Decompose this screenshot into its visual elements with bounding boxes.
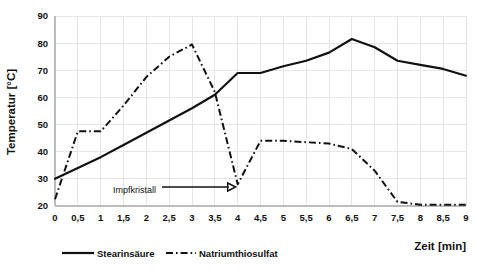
x-tick-label: 2,5 — [163, 212, 177, 223]
temperature-time-line-chart: 2030405060708090 00,511,522,533,544,555,… — [0, 0, 481, 272]
y-tick-label: 50 — [37, 119, 48, 130]
legend-label-natriumthiosulfat: Natriumthiosulfat — [199, 248, 278, 259]
x-tick-label: 4,5 — [254, 212, 268, 223]
y-tick-label: 90 — [37, 10, 48, 21]
x-tick-label: 1,5 — [117, 212, 131, 223]
x-tick-label: 3,5 — [208, 212, 222, 223]
x-tick-label: 0,5 — [71, 212, 85, 223]
x-axis-title: Zeit [min] — [414, 240, 466, 252]
y-tick-label: 70 — [37, 65, 48, 76]
x-tick-label: 8 — [418, 212, 423, 223]
legend-label-stearinsaeure: Stearinsäure — [97, 248, 155, 259]
y-tick-label: 80 — [37, 38, 48, 49]
annotation-impfkristall: Impfkristall — [113, 183, 236, 195]
x-tick-label: 4 — [235, 212, 241, 223]
annotation-label: Impfkristall — [113, 185, 156, 195]
x-tick-label: 7,5 — [391, 212, 405, 223]
x-tick-label: 5 — [281, 212, 287, 223]
x-axis-tick-labels: 00,511,522,533,544,555,566,577,588,59 — [52, 212, 468, 223]
y-axis-title: Temperatur [°C] — [5, 69, 17, 155]
y-tick-label: 20 — [37, 200, 48, 211]
chart-container: 2030405060708090 00,511,522,533,544,555,… — [0, 0, 481, 272]
chart-gridlines — [55, 16, 466, 206]
x-tick-label: 6 — [326, 212, 331, 223]
y-tick-label: 40 — [37, 146, 48, 157]
x-tick-label: 2 — [144, 212, 149, 223]
x-tick-label: 7 — [372, 212, 377, 223]
chart-legend: Stearinsäure Natriumthiosulfat — [62, 248, 278, 259]
x-tick-label: 8,5 — [437, 212, 451, 223]
y-axis-tick-labels: 2030405060708090 — [37, 10, 48, 211]
x-tick-label: 6,5 — [345, 212, 359, 223]
x-tick-label: 1 — [98, 212, 104, 223]
x-tick-label: 5,5 — [300, 212, 314, 223]
x-tick-label: 0 — [52, 212, 57, 223]
x-tick-label: 3 — [189, 212, 194, 223]
x-tick-label: 9 — [463, 212, 468, 223]
y-tick-label: 30 — [37, 173, 48, 184]
annotation-arrow-head — [228, 183, 236, 191]
y-tick-label: 60 — [37, 92, 48, 103]
